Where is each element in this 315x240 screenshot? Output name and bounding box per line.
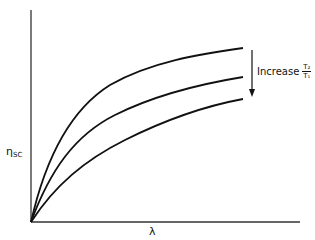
annotation-text: Increase (257, 66, 299, 77)
x-axis-label: λ (149, 225, 156, 238)
y-axis-label-main: η (6, 145, 13, 158)
curve-middle (31, 77, 243, 222)
y-axis-label-sub: SC (13, 151, 22, 159)
temperature-ratio: T₂ T₁ (302, 63, 311, 80)
ratio-numerator: T₂ (302, 63, 311, 72)
increase-annotation: Increase T₂ T₁ (257, 63, 311, 80)
arrow-head-icon (249, 89, 255, 97)
efficiency-diagram (0, 0, 315, 240)
y-axis-label: ηSC (6, 145, 22, 159)
ratio-denominator: T₁ (303, 72, 310, 80)
